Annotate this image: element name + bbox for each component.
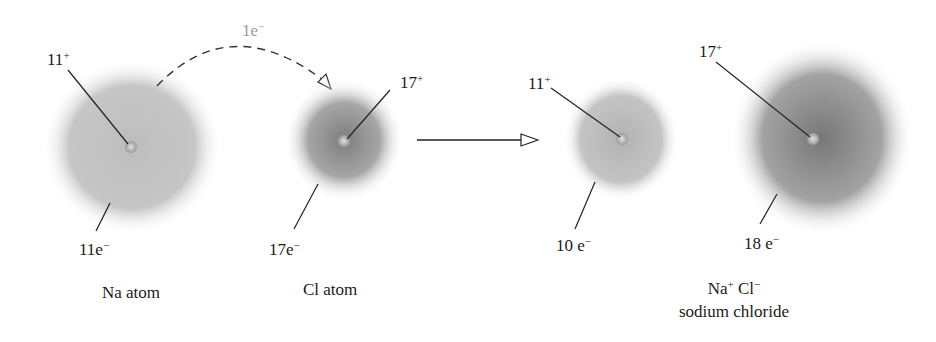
transfer-label-text: 1e (242, 21, 258, 40)
na-ion-electron-sup: − (585, 235, 591, 247)
formula-na: Na (708, 279, 728, 298)
na-electron-count: 11e (79, 240, 103, 259)
na-ion-nucleus-charge: 11 (528, 74, 544, 93)
cl-nucleus-charge: 17 (400, 73, 417, 92)
na-nucleus-sup: + (63, 49, 69, 61)
cl-ion-electron-label: 18 e− (744, 234, 779, 252)
na-atom-caption: Na atom (102, 282, 160, 305)
na-ion-nucleus-label: 11+ (528, 74, 551, 92)
na-atom (42, 59, 222, 235)
cl-ion-nucleus-label: 17+ (699, 42, 722, 60)
cl-ion-nucleus (807, 133, 819, 145)
cl-ion-nucleus-sup: + (716, 41, 722, 53)
na-nucleus-charge: 11 (47, 50, 63, 69)
formula-cl-sup: − (754, 278, 760, 290)
cl-nucleus-sup: + (417, 72, 423, 84)
na-ion-electron-count: 10 e (556, 236, 585, 255)
transfer-label-sup: − (258, 20, 264, 32)
formula-cl: Cl (734, 279, 754, 298)
na-ion-nucleus-sup: + (544, 73, 550, 85)
cl-ion-nucleus-charge: 17 (699, 42, 716, 61)
na-electron-sup: − (103, 239, 109, 251)
cl-ion (716, 40, 914, 236)
na-electron-label: 11e− (79, 240, 109, 258)
cl-ion-electron-count: 18 e (744, 234, 773, 253)
cl-atom-caption: Cl atom (303, 279, 357, 302)
transfer-label: 1e− (242, 21, 264, 39)
cl-electron-pointer (294, 184, 318, 229)
reaction-arrow (417, 134, 538, 146)
product-formula: Na+ Cl− (670, 277, 798, 301)
cl-electron-count: 17e (269, 240, 294, 259)
cl-ion-electron-sup: − (773, 233, 779, 245)
cl-electron-sup: − (294, 239, 300, 251)
product-name: sodium chloride (670, 301, 798, 324)
na-nucleus-label: 11+ (47, 50, 70, 68)
cl-atom (284, 78, 404, 229)
cl-ion-electron-cloud (730, 40, 914, 236)
cl-electron-label: 17e− (269, 240, 300, 258)
na-ion-electron-pointer (575, 182, 595, 229)
na-ion-electron-label: 10 e− (556, 236, 591, 254)
product-caption: Na+ Cl− sodium chloride (670, 277, 798, 324)
cl-nucleus-label: 17+ (400, 73, 423, 91)
na-ion (551, 77, 679, 229)
